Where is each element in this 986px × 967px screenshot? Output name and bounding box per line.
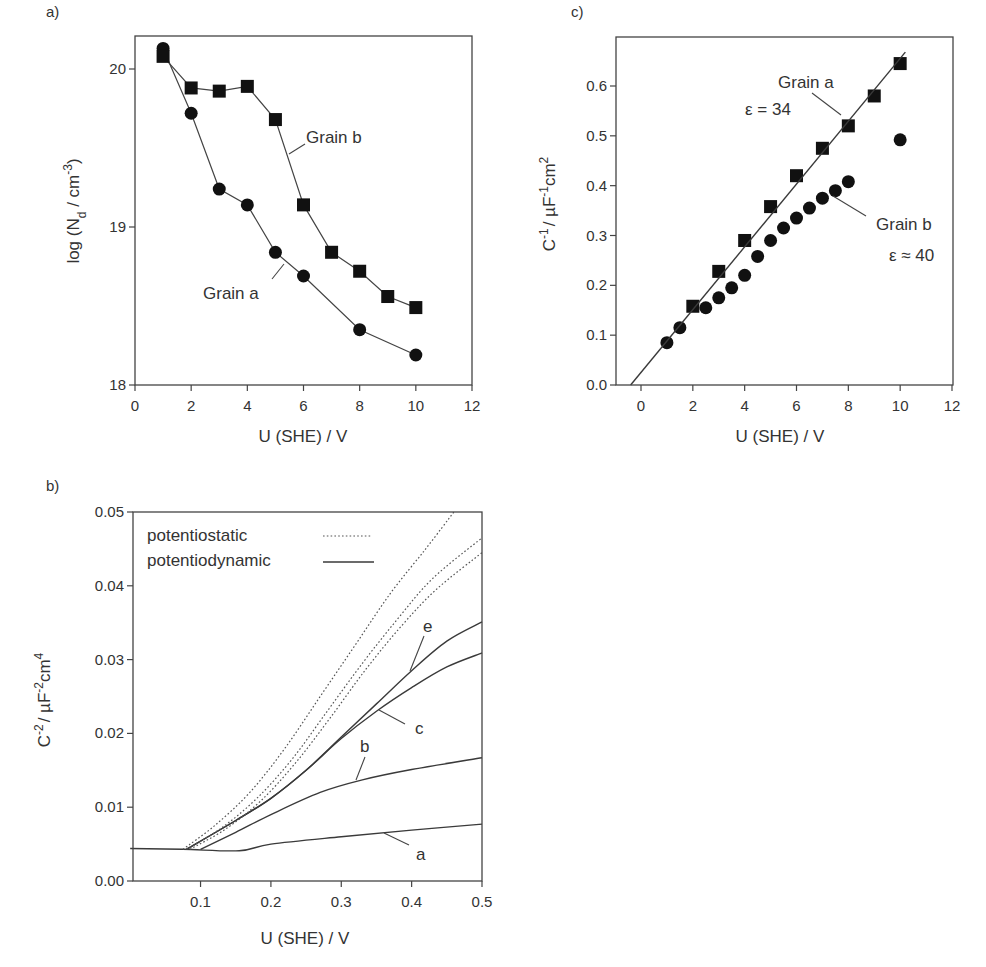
y-tick-label: 19 bbox=[109, 218, 126, 235]
grain-a-leader bbox=[272, 264, 284, 279]
circle-marker bbox=[213, 183, 226, 196]
annotation-epsilon-a: ε = 34 bbox=[745, 100, 791, 119]
annotation-c: c bbox=[415, 719, 424, 738]
y-tick-label: 0.6 bbox=[586, 77, 607, 94]
y-tick-label: 0.4 bbox=[586, 177, 607, 194]
square-marker bbox=[269, 113, 282, 126]
y-tick-label: 0.3 bbox=[586, 227, 607, 244]
y-tick-label: 0.5 bbox=[586, 127, 607, 144]
x-tick-label: 10 bbox=[892, 397, 909, 414]
square-marker bbox=[241, 80, 254, 93]
circle-marker bbox=[409, 348, 422, 361]
circle-marker bbox=[699, 301, 712, 314]
y-tick-label: 0.2 bbox=[586, 276, 607, 293]
y-tick-label: 0.00 bbox=[95, 872, 124, 889]
circle-marker bbox=[803, 202, 816, 215]
panel-a-data bbox=[157, 42, 423, 362]
panel-a-chart: a) 024681012181920 U (SHE) / V log (Nd /… bbox=[46, 3, 480, 446]
circle-marker bbox=[790, 212, 803, 225]
panel-c-label: c) bbox=[571, 3, 584, 20]
legend-potentiodynamic-label: potentiodynamic bbox=[147, 551, 271, 570]
circle-marker bbox=[829, 184, 842, 197]
annotation-grain-b: Grain b bbox=[876, 215, 932, 234]
x-tick-label: 0.1 bbox=[190, 893, 211, 910]
square-marker bbox=[157, 50, 170, 63]
grain-b-leader bbox=[289, 144, 305, 154]
annotation-grain-a: Grain a bbox=[203, 284, 259, 303]
square-marker bbox=[297, 198, 310, 211]
circle-marker bbox=[764, 234, 777, 247]
x-tick-label: 6 bbox=[792, 397, 800, 414]
grain-a-leader bbox=[812, 93, 841, 115]
series-line-e bbox=[186, 622, 482, 849]
y-tick-label: 0.02 bbox=[95, 724, 124, 741]
x-tick-label: 0.3 bbox=[331, 893, 352, 910]
circle-marker bbox=[777, 222, 790, 235]
curve-a-leader bbox=[384, 833, 409, 845]
x-tick-label: 0.2 bbox=[260, 893, 281, 910]
series-connector bbox=[163, 48, 416, 355]
legend-potentiostatic-label: potentiostatic bbox=[147, 526, 248, 545]
circle-marker bbox=[751, 250, 764, 263]
square-marker bbox=[381, 290, 394, 303]
x-tick-label: 2 bbox=[689, 397, 697, 414]
x-tick-label: 10 bbox=[407, 397, 424, 414]
circle-marker bbox=[673, 321, 686, 334]
series-line-potentiostatic-2 bbox=[186, 538, 482, 849]
square-marker bbox=[185, 81, 198, 94]
annotation-a: a bbox=[416, 845, 426, 864]
y-tick-label: 18 bbox=[109, 376, 126, 393]
figure: a) 024681012181920 U (SHE) / V log (Nd /… bbox=[0, 0, 986, 967]
circle-marker bbox=[353, 323, 366, 336]
square-marker bbox=[213, 85, 226, 98]
panel-a-y-axis-title: log (Nd / cm-3) bbox=[61, 158, 89, 263]
circle-marker bbox=[725, 281, 738, 294]
square-marker bbox=[790, 169, 803, 182]
x-tick-label: 0.4 bbox=[401, 893, 422, 910]
series-connector bbox=[163, 56, 416, 307]
x-tick-label: 4 bbox=[243, 397, 251, 414]
square-marker bbox=[325, 246, 338, 259]
square-marker bbox=[353, 265, 366, 278]
panel-c-y-axis-title: C-1/ µF-1cm2 bbox=[537, 156, 559, 251]
circle-marker bbox=[894, 133, 907, 146]
y-tick-label: 0.05 bbox=[95, 503, 124, 520]
panel-a-label: a) bbox=[46, 3, 59, 20]
circle-marker bbox=[269, 246, 282, 259]
circle-marker bbox=[842, 175, 855, 188]
y-tick-label: 0.01 bbox=[95, 798, 124, 815]
circle-marker bbox=[738, 269, 751, 282]
panel-a-axes: 024681012181920 bbox=[109, 60, 480, 414]
square-marker bbox=[712, 265, 725, 278]
legend: potentiostatic potentiodynamic bbox=[147, 526, 374, 570]
curve-b-leader bbox=[356, 757, 365, 780]
circle-marker bbox=[241, 198, 254, 211]
annotation-epsilon-b: ε ≈ 40 bbox=[889, 246, 934, 265]
circle-marker bbox=[816, 192, 829, 205]
series-line-potentiostatic-3 bbox=[190, 553, 482, 850]
annotation-grain-b: Grain b bbox=[306, 128, 362, 147]
y-tick-label: 0.1 bbox=[586, 326, 607, 343]
circle-marker bbox=[297, 269, 310, 282]
x-tick-label: 12 bbox=[464, 397, 481, 414]
x-tick-label: 0 bbox=[131, 397, 139, 414]
grain-b-leader bbox=[833, 196, 866, 216]
panel-b-label: b) bbox=[46, 477, 59, 494]
square-marker bbox=[686, 300, 699, 313]
panel-b-y-axis-title: C-2/ µF-2cm4 bbox=[32, 652, 54, 747]
x-tick-label: 8 bbox=[355, 397, 363, 414]
annotation-e: e bbox=[423, 617, 432, 636]
circle-marker bbox=[185, 107, 198, 120]
x-tick-label: 12 bbox=[944, 397, 961, 414]
y-tick-label: 0.0 bbox=[586, 376, 607, 393]
x-tick-label: 2 bbox=[187, 397, 195, 414]
y-tick-label: 20 bbox=[109, 60, 126, 77]
x-tick-label: 8 bbox=[844, 397, 852, 414]
x-tick-label: 6 bbox=[299, 397, 307, 414]
annotation-grain-a: Grain a bbox=[778, 73, 834, 92]
panel-b-x-axis-title: U (SHE) / V bbox=[261, 929, 350, 948]
x-tick-label: 0.5 bbox=[472, 893, 493, 910]
panel-a-x-axis-title: U (SHE) / V bbox=[259, 427, 348, 446]
square-marker bbox=[409, 301, 422, 314]
x-tick-label: 4 bbox=[740, 397, 748, 414]
